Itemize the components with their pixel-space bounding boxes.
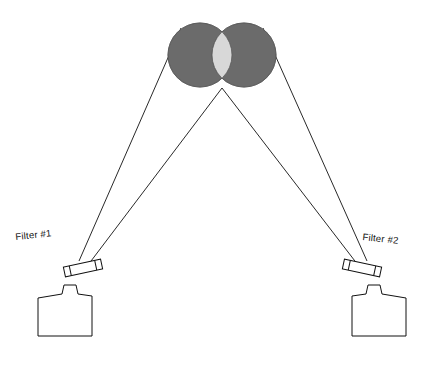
ray-1b (88, 88, 222, 265)
ray-2a (263, 28, 367, 261)
optical-setup-diagram (0, 0, 444, 367)
disc-pair (168, 23, 276, 87)
filter-2-plate (342, 259, 381, 277)
ray-2b (222, 88, 358, 265)
diagram-canvas: Filter #1 Filter #2 (0, 0, 444, 367)
filter-1-plate (63, 259, 102, 277)
camera-2-body (352, 285, 406, 336)
camera-1-body (38, 285, 92, 336)
ray-1a (79, 28, 181, 261)
